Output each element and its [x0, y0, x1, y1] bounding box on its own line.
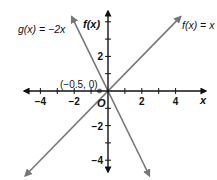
labels-layer: f(x) x O g(x) = −2x f(x) = x (−0.5, 0): [18, 18, 215, 109]
y-tick-label: 2: [97, 51, 103, 62]
function-graph: −4−2242−2−4 f(x) x O g(x) = −2x f(x) = x…: [0, 0, 217, 180]
x-tick-label: −4: [35, 96, 47, 107]
series-line-1: [72, 17, 150, 176]
x-axis-label: x: [199, 94, 207, 106]
f-function-label: f(x) = x: [182, 19, 215, 31]
y-tick-label: −4: [92, 155, 104, 166]
x-tick-label: −2: [68, 96, 80, 107]
point-annotation-label: (−0.5, 0): [60, 79, 98, 90]
origin-label: O: [97, 97, 106, 109]
y-tick-label: −2: [92, 121, 104, 132]
x-tick-label: 4: [173, 96, 179, 107]
axes-layer: [24, 11, 206, 172]
x-tick-label: 2: [139, 96, 145, 107]
y-axis-label: f(x): [83, 18, 100, 30]
g-function-label: g(x) = −2x: [18, 23, 66, 35]
